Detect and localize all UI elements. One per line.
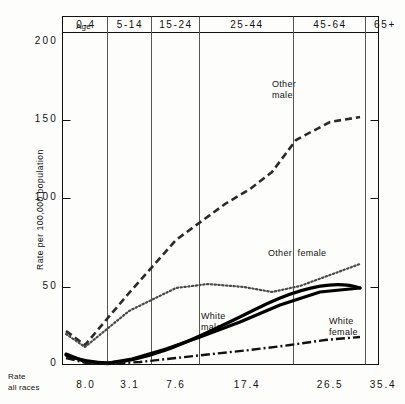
band-separators bbox=[108, 17, 366, 365]
series-white-male bbox=[0, 0, 360, 363]
series-other-female bbox=[66, 264, 360, 347]
series-other-male bbox=[66, 117, 360, 345]
chart-figure: Age 0-4 5-14 15-24 25-44 45-64 65+ 200 1… bbox=[0, 0, 405, 404]
series-white-female bbox=[66, 337, 360, 364]
series-white-male-line bbox=[66, 288, 360, 363]
chart-frame bbox=[63, 17, 379, 365]
plot-area bbox=[0, 0, 405, 404]
y-axis-ticks bbox=[63, 121, 379, 288]
